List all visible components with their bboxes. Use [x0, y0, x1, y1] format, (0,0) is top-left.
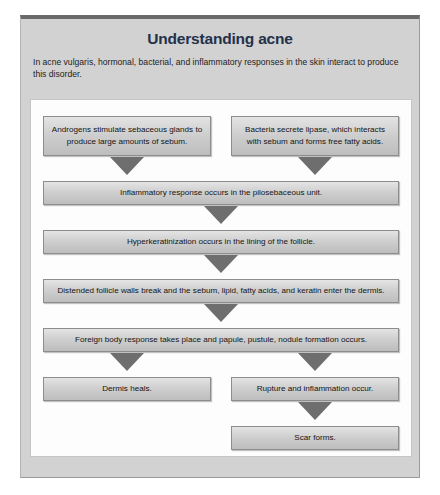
arrow-inflammatory-to-hyperkeratinization — [204, 206, 238, 224]
arrow-androgens-to-inflammatory — [110, 157, 144, 175]
arrow-rupture-to-scar — [298, 402, 332, 420]
flow-node-dermis-heals-label: Dermis heals. — [102, 383, 151, 395]
figure-intro-text: In acne vulgaris, hormonal, bacterial, a… — [33, 56, 407, 80]
flow-node-distended-label: Distended follicle walls break and the s… — [57, 285, 384, 297]
arrow-bacteria-to-inflammatory — [298, 157, 332, 175]
arrow-distended-to-foreign-body — [204, 304, 238, 322]
flow-node-distended: Distended follicle walls break and the s… — [43, 279, 399, 303]
flow-node-rupture-label: Rupture and inflammation occur. — [257, 383, 374, 395]
flow-node-foreign-body: Foreign body response takes place and pa… — [43, 328, 399, 352]
flow-node-bacteria: Bacteria secrete lipase, which interacts… — [231, 116, 399, 156]
flow-node-androgens: Androgens stimulate sebaceous glands to … — [43, 116, 211, 156]
flow-node-bacteria-label: Bacteria secrete lipase, which interacts… — [237, 124, 393, 147]
figure-frame: Understanding acne In acne vulgaris, hor… — [20, 15, 420, 478]
flowchart-panel: Androgens stimulate sebaceous glands to … — [30, 99, 412, 457]
flow-node-scar-label: Scar forms. — [294, 432, 335, 444]
flow-node-scar: Scar forms. — [231, 426, 399, 450]
flow-node-hyperkeratinization: Hyperkeratinization occurs in the lining… — [43, 230, 399, 254]
flow-node-foreign-body-label: Foreign body response takes place and pa… — [75, 334, 367, 346]
arrow-foreign-body-to-dermis-heals — [110, 353, 144, 371]
arrow-hyperkeratinization-to-distended — [204, 255, 238, 273]
flow-node-inflammatory-label: Inflammatory response occurs in the pilo… — [120, 187, 322, 199]
flow-node-hyperkeratinization-label: Hyperkeratinization occurs in the lining… — [127, 236, 315, 248]
flow-node-dermis-heals: Dermis heals. — [43, 377, 211, 401]
flow-node-androgens-label: Androgens stimulate sebaceous glands to … — [49, 124, 205, 147]
arrow-foreign-body-to-rupture — [298, 353, 332, 371]
page-title: Understanding acne — [21, 30, 419, 48]
flow-node-rupture: Rupture and inflammation occur. — [231, 377, 399, 401]
flow-node-inflammatory: Inflammatory response occurs in the pilo… — [43, 181, 399, 205]
